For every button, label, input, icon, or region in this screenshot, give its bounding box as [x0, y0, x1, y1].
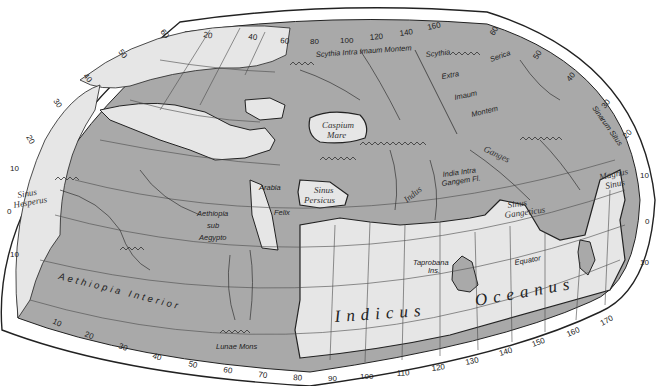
label-aethiopia-sub-1: Aethiopia [196, 209, 228, 218]
tick-left-0: 0 [7, 207, 12, 216]
tick-left-30: 30 [51, 97, 64, 110]
tick-bottom-170: 170 [599, 313, 615, 327]
label-sinus-persicus-2: Persicus [303, 195, 335, 205]
tick-bottom-70: 70 [258, 370, 269, 380]
tick-bottom-90: 90 [328, 374, 337, 383]
tick-top-60: 60 [280, 36, 290, 46]
label-aethiopia-sub-2: sub [207, 221, 219, 230]
tick-bottom-130: 130 [465, 355, 480, 367]
label-lunae-mons: Lunae Mons [216, 342, 258, 351]
tick-bottom-100: 100 [360, 372, 374, 381]
label-aethiopia-sub-3: Aegypto [198, 233, 227, 242]
tick-top-140: 140 [399, 27, 414, 38]
tick-right-0: 0 [645, 217, 650, 226]
label-taprobana-2: Ins. [428, 266, 440, 275]
ptolemy-world-map: 20 40 60 80 100 120 140 160 60 50 40 30 … [0, 0, 656, 386]
tick-top-80: 80 [310, 37, 319, 46]
tick-left-neg10: 10 [10, 250, 19, 259]
tick-bottom-80: 80 [293, 373, 303, 383]
tick-left-20: 20 [24, 134, 37, 147]
tick-bottom-120: 120 [431, 362, 446, 373]
label-mare: Mare [326, 130, 346, 140]
tick-bottom-110: 110 [397, 368, 411, 378]
label-felix: Felix [274, 208, 290, 217]
label-sinus-persicus-1: Sinus [314, 185, 334, 195]
tick-top-120: 120 [369, 32, 384, 42]
tick-right-neg10: 10 [640, 258, 649, 267]
label-caspium: Caspium [322, 120, 355, 130]
tick-top-100: 100 [340, 36, 354, 45]
label-arabia: Arabia [258, 183, 281, 192]
tick-top-40: 40 [248, 32, 259, 42]
tick-bottom-160: 160 [565, 325, 581, 339]
tick-right-10: 10 [640, 171, 649, 180]
tick-left-10: 10 [10, 164, 19, 173]
